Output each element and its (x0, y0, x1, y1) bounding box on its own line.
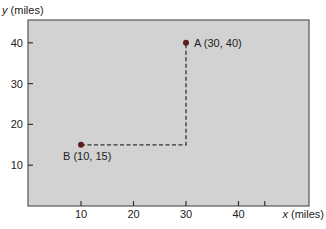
point-b (78, 142, 84, 148)
point-a-label: A (30, 40) (194, 37, 242, 49)
plot-area (28, 20, 309, 206)
x-tick-label: 20 (127, 208, 139, 220)
y-tick-label: 20 (11, 118, 23, 130)
y-axis-label: y (miles) (1, 4, 44, 16)
y-tick-label: 40 (11, 37, 23, 49)
point-b-label: B (10, 15) (63, 150, 111, 162)
y-tick-label: 10 (11, 159, 23, 171)
point-a (183, 40, 189, 46)
x-tick-label: 30 (180, 208, 192, 220)
x-axis-label: x (miles) (281, 208, 324, 220)
chart-svg: 10203040 10203040 A (30, 40)B (10, 15) y… (0, 0, 326, 229)
y-tick-label: 30 (11, 78, 23, 90)
x-tick-label: 40 (232, 208, 244, 220)
x-tick-label: 10 (75, 208, 87, 220)
